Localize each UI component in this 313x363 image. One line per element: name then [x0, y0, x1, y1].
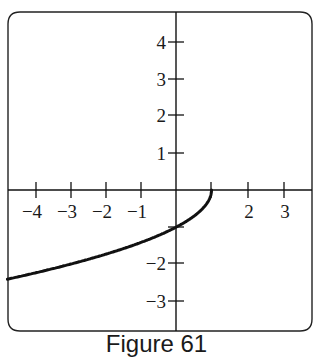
x-tick-label: 3	[280, 201, 290, 222]
chart-plot: −4 −3 −2 −1 2 3 4 3 2 1 −2 −3	[0, 0, 313, 363]
figure-caption: Figure 61	[0, 330, 313, 358]
x-tick-label: −3	[57, 201, 77, 222]
y-tick-label: 4	[157, 32, 167, 53]
plot-frame	[8, 12, 312, 331]
x-tick-label: −4	[22, 201, 43, 222]
x-tick-label: 2	[244, 201, 254, 222]
y-tick-label: 2	[157, 105, 167, 126]
y-tick-label: −3	[146, 291, 166, 312]
y-tick-label: −2	[146, 253, 166, 274]
y-tick-label: 3	[157, 69, 167, 90]
figure: −4 −3 −2 −1 2 3 4 3 2 1 −2 −3 Figure 61	[0, 0, 313, 363]
y-tick-label: 1	[157, 143, 167, 164]
x-tick-label: −2	[92, 201, 112, 222]
x-tick-label: −1	[127, 201, 147, 222]
